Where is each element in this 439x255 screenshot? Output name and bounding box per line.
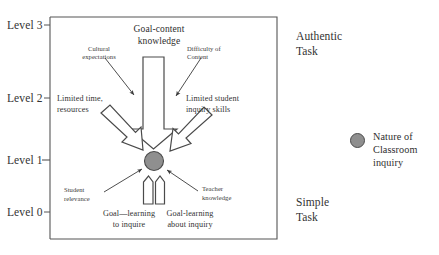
side-label-simple-task-line1: Simple xyxy=(296,196,329,209)
node-label-student-relevance-line1: Student xyxy=(64,186,112,193)
node-label-limited-time-resources-line1: Limited time, xyxy=(57,94,103,103)
node-label-goal-learning-about-inquiry-line2: about inquiry xyxy=(159,220,221,229)
goal-learning-about-inquiry-arrow xyxy=(156,176,165,204)
axis-label-level-3: Level 3 xyxy=(7,19,43,32)
node-label-difficulty-of-content-line1: Difficulty of xyxy=(187,45,247,52)
node-label-goal-content-knowledge-line1: Goal-content xyxy=(124,24,194,35)
side-label-authentic-task-line2: Task xyxy=(296,45,318,58)
axis-label-level-2: Level 2 xyxy=(7,92,43,105)
node-label-teacher-knowledge-line1: Teacher xyxy=(202,185,250,192)
legend-label-line1: Nature of xyxy=(373,130,413,143)
goal-learning-to-inquire-arrow xyxy=(144,176,154,204)
node-label-goal-learning-to-inquire-line1: Goal—learning xyxy=(100,209,158,218)
legend-label-line2: Classroom xyxy=(373,143,417,156)
node-label-limited-student-inquiry-skills-line2: inquiry skills xyxy=(186,105,230,114)
node-label-limited-student-inquiry-skills-line1: Limited student xyxy=(186,94,239,103)
cultural-expectations-arrow xyxy=(105,58,134,95)
side-label-simple-task-line2: Task xyxy=(296,211,318,224)
nature-of-classroom-inquiry-node xyxy=(145,152,164,171)
axis-label-level-0: Level 0 xyxy=(7,206,43,219)
axis-label-level-1: Level 1 xyxy=(7,154,43,167)
teacher-knowledge-arrow xyxy=(167,170,198,191)
side-label-authentic-task-line1: Authentic xyxy=(296,30,342,43)
node-label-goal-learning-about-inquiry-line1: Goal-learning xyxy=(159,209,221,218)
limited-time-resources-arrow xyxy=(101,105,143,150)
node-label-limited-time-resources-line2: resources xyxy=(57,105,89,114)
node-label-difficulty-of-content-line2: Content xyxy=(187,53,247,60)
node-label-cultural-expectations-line1: Cultural xyxy=(70,45,128,52)
legend-label-line3: inquiry xyxy=(373,156,403,169)
legend-marker-icon xyxy=(350,133,365,148)
node-label-student-relevance-line2: relevance xyxy=(64,195,112,202)
diagram-canvas: Level 3 Level 2 Level 1 Level 0 Authenti… xyxy=(0,0,439,255)
difficulty-of-content-arrow xyxy=(176,58,201,96)
level-axis xyxy=(42,17,50,239)
node-label-cultural-expectations-line2: expectations xyxy=(70,53,128,60)
node-label-teacher-knowledge-line2: knowledge xyxy=(202,194,250,201)
node-label-goal-learning-to-inquire-line2: to inquire xyxy=(100,220,158,229)
node-label-goal-content-knowledge-line2: knowledge xyxy=(124,36,194,47)
